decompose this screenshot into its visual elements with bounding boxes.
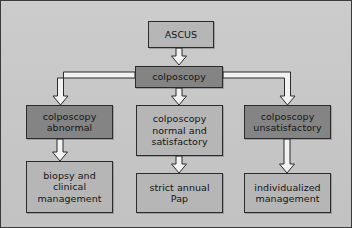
node-strict-annual-pap-label: strict annual Pap: [139, 182, 220, 205]
node-colposcopy-unsatisfactory-label: colposcopy unsatisfactory: [247, 111, 328, 134]
node-colposcopy-normal-satisfactory[interactable]: colposcopy normal and satisfactory: [136, 105, 223, 156]
arrow-colposcopy-to-normal: [172, 88, 187, 105]
node-ascus-label: ASCUS: [151, 29, 211, 41]
node-colposcopy-label: colposcopy: [138, 71, 220, 83]
flowchart-figure: ASCUS colposcopy colposcopy abnormal col…: [0, 0, 352, 228]
arrow-colposcopy-to-abnormal: [53, 72, 135, 105]
node-colposcopy-normal-satisfactory-label: colposcopy normal and satisfactory: [139, 113, 220, 148]
node-individualized-management-label: individualized management: [247, 182, 328, 205]
arrow-ascus-to-colposcopy: [172, 48, 187, 65]
node-colposcopy-unsatisfactory[interactable]: colposcopy unsatisfactory: [244, 105, 331, 139]
node-colposcopy-abnormal-label: colposcopy abnormal: [29, 111, 110, 134]
node-biopsy-clinical-management-label: biopsy and clinical management: [29, 170, 110, 205]
node-colposcopy-abnormal[interactable]: colposcopy abnormal: [26, 105, 113, 139]
node-colposcopy[interactable]: colposcopy: [135, 66, 223, 88]
arrow-abnormal-to-biopsy: [53, 139, 68, 161]
arrow-colposcopy-to-unsatisfactory: [223, 72, 295, 105]
arrow-unsatisfactory-to-individualized: [280, 139, 295, 173]
arrow-normal-to-pap: [172, 156, 187, 173]
node-strict-annual-pap[interactable]: strict annual Pap: [136, 173, 223, 213]
node-biopsy-clinical-management[interactable]: biopsy and clinical management: [26, 161, 113, 213]
node-ascus[interactable]: ASCUS: [148, 21, 214, 48]
node-individualized-management[interactable]: individualized management: [244, 173, 331, 213]
